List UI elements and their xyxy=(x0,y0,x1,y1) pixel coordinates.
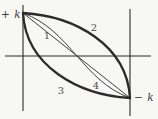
hysteresis-loop-diagram: + k − k 1 2 3 4 xyxy=(0,0,158,119)
curve-label-4: 4 xyxy=(93,80,99,91)
curve-label-3: 3 xyxy=(58,85,64,96)
curve-label-2: 2 xyxy=(91,22,97,33)
diagram-canvas: + k − k 1 2 3 4 xyxy=(0,0,158,119)
minus-k-label: − k xyxy=(134,91,154,103)
plus-k-label: + k xyxy=(1,8,21,20)
curve-label-1: 1 xyxy=(44,30,50,41)
